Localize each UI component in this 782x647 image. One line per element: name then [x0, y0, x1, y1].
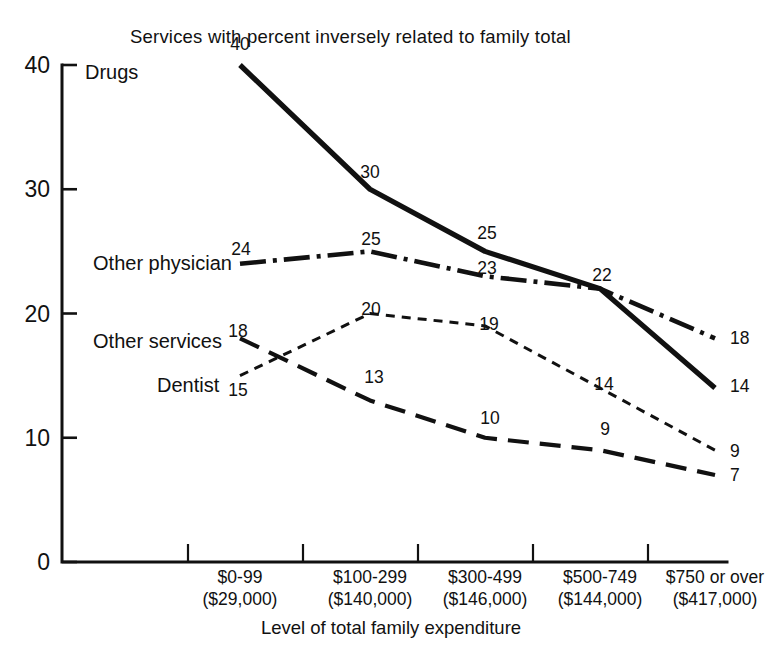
data-point-label: 23 — [477, 258, 496, 278]
data-point-label: 40 — [230, 34, 250, 54]
x-axis-separators — [188, 544, 648, 562]
data-point-label: 22 — [592, 265, 611, 285]
data-point-label: 25 — [477, 223, 496, 243]
x-axis-category-sublabel-3: ($144,000) — [558, 589, 643, 609]
data-point-label: 14 — [594, 374, 614, 394]
y-axis-tick-label-4: 40 — [24, 52, 50, 78]
x-axis-category-label-3: $500-749 — [563, 567, 637, 587]
y-axis-tick-label-3: 30 — [24, 176, 50, 202]
series-label-drugs: Drugs — [85, 61, 138, 83]
x-axis-title: Level of total family expenditure — [261, 617, 521, 638]
data-point-label: 25 — [361, 229, 380, 249]
data-point-label: 10 — [480, 408, 500, 428]
y-axis-tick-label-2: 20 — [24, 301, 50, 327]
line-chart: Services with percent inversely related … — [0, 0, 782, 647]
series-label-other-physician: Other physician — [93, 252, 232, 274]
series-label-other-services: Other services — [93, 330, 222, 352]
series-label-dentist: Dentist — [157, 374, 220, 396]
x-axis-category-label-1: $100-299 — [333, 567, 407, 587]
x-axis-category-labels: $0-99($29,000)$100-299($140,000)$300-499… — [203, 567, 765, 609]
data-point-label: 9 — [600, 419, 610, 439]
y-axis-ticks: 010203040 — [24, 52, 77, 575]
x-axis-category-sublabel-1: ($140,000) — [328, 589, 413, 609]
x-axis-category-label-4: $750 or over — [666, 567, 764, 587]
data-point-label: 18 — [228, 321, 247, 341]
series-line-dentist — [240, 338, 715, 475]
data-point-label: 20 — [361, 299, 381, 319]
chart-title: Services with percent inversely related … — [130, 26, 571, 47]
data-point-label: 14 — [730, 376, 750, 396]
series-line-other-services — [240, 314, 715, 451]
x-axis-category-label-2: $300-499 — [448, 567, 522, 587]
x-axis-category-sublabel-4: ($417,000) — [673, 589, 758, 609]
y-axis-tick-label-1: 10 — [24, 425, 50, 451]
x-axis-category-label-0: $0-99 — [218, 567, 263, 587]
y-axis-tick-label-0: 0 — [37, 549, 50, 575]
data-point-label: 24 — [231, 239, 251, 259]
data-point-label: 18 — [730, 328, 749, 348]
data-point-label: 19 — [479, 314, 498, 334]
chart-container: Services with percent inversely related … — [0, 0, 782, 647]
series-legend-labels: DrugsOther physicianOther servicesDentis… — [85, 61, 232, 396]
data-point-label: 7 — [730, 465, 740, 485]
data-point-label: 30 — [360, 162, 380, 182]
x-axis-category-sublabel-2: ($146,000) — [443, 589, 528, 609]
data-point-label: 13 — [364, 367, 383, 387]
data-point-label: 15 — [228, 380, 247, 400]
x-axis-category-sublabel-0: ($29,000) — [203, 589, 278, 609]
data-point-label: 9 — [730, 441, 740, 461]
